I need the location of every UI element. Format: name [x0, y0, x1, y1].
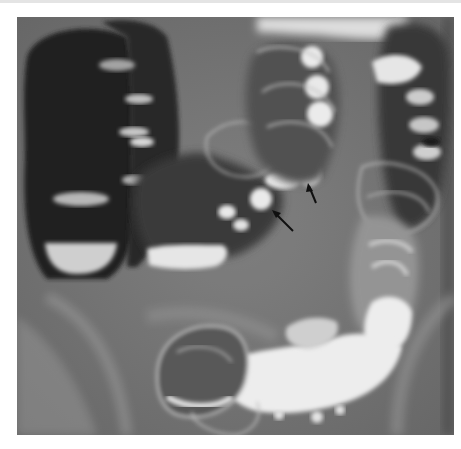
film-grain — [17, 17, 454, 435]
radiograph-svg — [17, 17, 454, 435]
radiograph-image — [17, 17, 454, 435]
top-strip — [0, 0, 461, 3]
